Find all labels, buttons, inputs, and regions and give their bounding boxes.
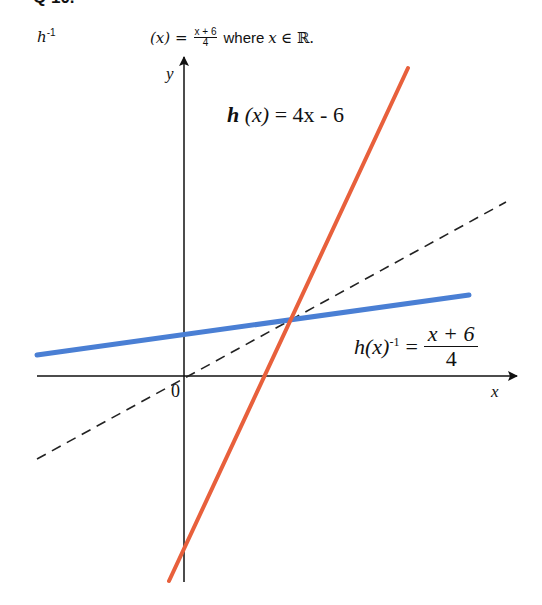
graph xyxy=(0,0,542,605)
h-function-label: h (x) = 4x - 6 xyxy=(227,102,344,128)
inverse-fraction: x + 6 4 xyxy=(424,322,479,371)
origin-label: 0 xyxy=(171,381,180,402)
y-axis-label: y xyxy=(166,64,174,84)
inverse-function-label: h(x)-1 = x + 6 4 xyxy=(354,322,478,371)
x-axis-label: x xyxy=(491,382,499,402)
